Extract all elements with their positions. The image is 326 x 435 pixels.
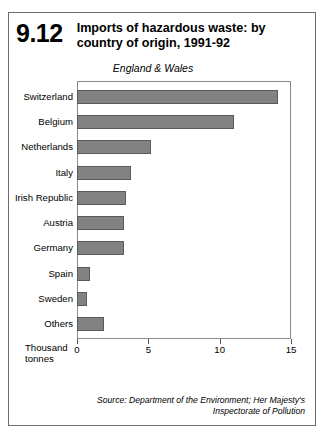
bar-row: Austria xyxy=(77,216,291,230)
bar-row: Switzerland xyxy=(77,90,291,104)
figure-title: Imports of hazardous waste: by country o… xyxy=(77,19,307,50)
bar-category-label: Netherlands xyxy=(21,140,73,154)
bar xyxy=(77,292,87,306)
bar-category-label: Austria xyxy=(43,216,73,230)
bar xyxy=(77,317,104,331)
bar-row: Others xyxy=(77,317,291,331)
bar xyxy=(77,241,124,255)
figure-subtitle: England & Wales xyxy=(9,62,315,74)
bar-row: Sweden xyxy=(77,292,291,306)
bar-category-label: Switzerland xyxy=(23,90,73,104)
x-axis-title-line1: Thousand xyxy=(25,343,77,354)
bar-series: SwitzerlandBelgiumNetherlandsItalyIrish … xyxy=(77,81,291,339)
x-axis-tick-label: 15 xyxy=(286,344,297,355)
x-axis-tick-labels: 051015 xyxy=(77,344,291,358)
bar-row: Italy xyxy=(77,166,291,180)
bar xyxy=(77,90,278,104)
bar xyxy=(77,166,131,180)
bar-row: Irish Republic xyxy=(77,191,291,205)
bar-category-label: Italy xyxy=(55,166,73,180)
bar xyxy=(77,140,151,154)
bar-category-label: Others xyxy=(44,317,73,331)
figure-header: 9.12 Imports of hazardous waste: by coun… xyxy=(9,13,315,50)
bar-chart: SwitzerlandBelgiumNetherlandsItalyIrish … xyxy=(9,81,315,347)
bar-category-label: Germany xyxy=(34,241,73,255)
bar xyxy=(77,191,126,205)
bar-category-label: Sweden xyxy=(38,292,73,306)
bar-row: Belgium xyxy=(77,115,291,129)
source-note: Source: Department of the Environment; H… xyxy=(87,395,305,417)
bar-row: Netherlands xyxy=(77,140,291,154)
x-axis-title-line2: tonnes xyxy=(25,354,77,365)
bar xyxy=(77,216,124,230)
x-axis-tick-label: 10 xyxy=(214,344,225,355)
bar-category-label: Spain xyxy=(48,267,73,281)
figure-number: 9.12 xyxy=(16,19,63,46)
x-axis-tick-label: 5 xyxy=(146,344,151,355)
bar-category-label: Irish Republic xyxy=(15,191,73,205)
bar xyxy=(77,115,234,129)
bar xyxy=(77,267,90,281)
x-axis-title: Thousand tonnes xyxy=(25,343,77,364)
bar-category-label: Belgium xyxy=(38,115,73,129)
bar-row: Germany xyxy=(77,241,291,255)
bar-row: Spain xyxy=(77,267,291,281)
figure-card: 9.12 Imports of hazardous waste: by coun… xyxy=(8,12,316,426)
